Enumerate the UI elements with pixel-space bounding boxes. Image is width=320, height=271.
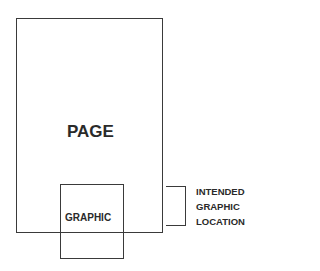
annotation-line-1: INTENDED xyxy=(196,186,245,197)
graphic-label: GRAPHIC xyxy=(65,212,111,223)
annotation-line-2: GRAPHIC xyxy=(196,201,240,212)
page-label: PAGE xyxy=(67,122,114,142)
annotation-line-3: LOCATION xyxy=(196,216,245,227)
